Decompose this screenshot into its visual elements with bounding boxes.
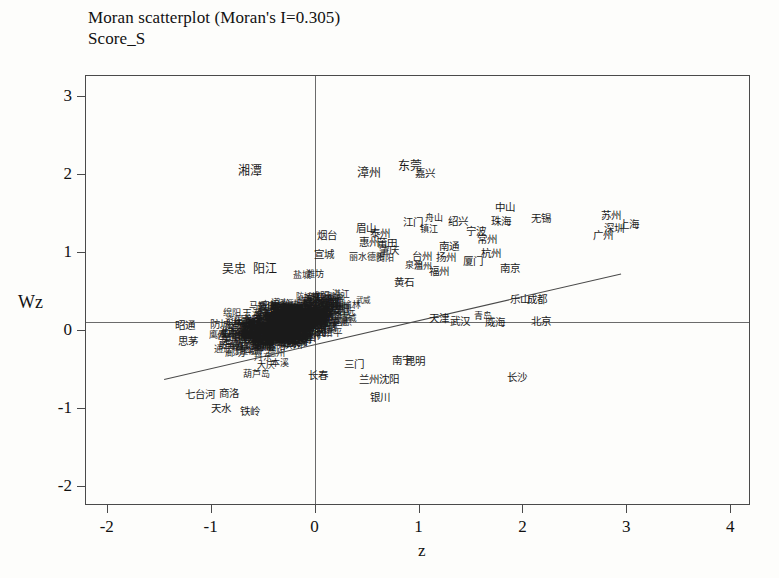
data-point-label: 惠州 (359, 236, 379, 247)
data-point-label: 扬州 (436, 251, 456, 262)
data-point-label: 丽江 (321, 300, 337, 308)
x-tick-mark (315, 504, 316, 513)
x-tick-label: 4 (726, 517, 735, 537)
data-point-label: 营口 (241, 334, 261, 344)
data-point-label: 长沙 (507, 372, 527, 383)
y-tick-label: -2 (58, 476, 72, 496)
data-point-label: 无锡 (531, 213, 551, 224)
data-point-label: 信阳 (329, 293, 345, 301)
chart-subtitle: Score_S (88, 29, 340, 50)
y-tick-mark (77, 96, 86, 97)
data-point-label: 湘潭 (238, 165, 262, 177)
data-point-label: 杭州 (481, 247, 501, 258)
y-tick-mark (77, 174, 86, 175)
data-point-label: 银川 (370, 392, 390, 403)
y-tick-label: 2 (64, 164, 73, 184)
x-tick-mark (626, 504, 627, 513)
data-point-label: 宣城 (314, 249, 334, 260)
data-point-label: 沈阳 (379, 373, 399, 384)
data-point-label: 天水 (211, 403, 231, 414)
data-point-label: 珠海 (491, 215, 511, 226)
data-point-label: 洛阳 (334, 311, 350, 319)
y-axis-title: Wz (18, 292, 43, 313)
data-point-label: 苏州 (601, 210, 621, 221)
data-point-label: 丽水 (349, 253, 367, 262)
data-point-label: 广州 (593, 229, 613, 240)
x-tick-label: -1 (204, 517, 218, 537)
data-point-label: 成都 (527, 294, 547, 305)
data-point-label: 阳江 (253, 263, 277, 275)
x-tick-mark (419, 504, 420, 513)
y-tick-mark (77, 252, 86, 253)
x-tick-label: -2 (100, 517, 114, 537)
data-point-label: 烟台 (317, 229, 337, 240)
data-point-label: 舟山 (425, 214, 443, 223)
data-point-label: 南京 (500, 262, 520, 273)
data-point-label: 威海 (485, 317, 505, 328)
data-point-label: 嘉兴 (415, 168, 435, 179)
data-point-label: 吴忠 (222, 263, 246, 275)
x-tick-label: 3 (622, 517, 631, 537)
y-tick-label: -1 (58, 398, 72, 418)
x-tick-label: 2 (518, 517, 527, 537)
plot-clip: 湘潭漳州东莞嘉兴中山苏州上海深圳广州无锡珠海绍兴江门舟山镇江宁波常州眉山泰州烟台… (86, 76, 749, 504)
data-point-label: 渭南 (263, 337, 281, 346)
data-point-label: 铁岭 (240, 405, 260, 416)
x-tick-mark (211, 504, 212, 513)
x-tick-mark (107, 504, 108, 513)
data-point-label: 黄石 (394, 276, 414, 287)
data-point-label: 思茅 (178, 336, 198, 347)
y-tick-label: 1 (64, 242, 73, 262)
data-point-label: 北京 (531, 316, 551, 327)
data-point-label: 昭通 (175, 319, 195, 330)
plot-area: 湘潭漳州东莞嘉兴中山苏州上海深圳广州无锡珠海绍兴江门舟山镇江宁波常州眉山泰州烟台… (85, 75, 750, 505)
x-axis-title: z (418, 541, 426, 561)
chart-title-block: Moran scatterplot (Moran's I=0.305) Scor… (88, 8, 340, 49)
data-point-label: 贵阳 (376, 254, 394, 263)
data-point-label: 防城港 (296, 293, 320, 301)
data-point-label: 德州 (267, 349, 285, 358)
data-point-label: 常州 (477, 233, 497, 244)
x-tick-label: 0 (310, 517, 319, 537)
y-tick-label: 0 (64, 320, 73, 340)
x-tick-label: 1 (414, 517, 423, 537)
data-point-label: 昆明 (405, 356, 425, 367)
data-point-label: 三门 (344, 358, 364, 369)
moran-scatterplot-figure: Moran scatterplot (Moran's I=0.305) Scor… (0, 0, 779, 578)
x-tick-mark (730, 504, 731, 513)
data-point-label: 榆林 (343, 301, 361, 310)
data-point-label: 七台河 (185, 389, 215, 400)
data-point-label: 厦门 (463, 256, 483, 267)
y-tick-label: 3 (64, 86, 73, 106)
y-tick-mark (77, 408, 86, 409)
data-point-label: 天津 (429, 312, 449, 323)
data-point-label: 镇江 (420, 225, 438, 234)
data-point-label: 葫芦岛 (243, 369, 270, 378)
data-point-label: 漳州 (357, 167, 381, 179)
data-point-label: 潍坊 (306, 269, 324, 278)
data-point-label: 武汉 (450, 315, 470, 326)
data-point-label: 福州 (429, 265, 449, 276)
data-point-label: 盘锦 (272, 311, 290, 320)
data-point-label: 商洛 (219, 387, 239, 398)
chart-title: Moran scatterplot (Moran's I=0.305) (88, 8, 340, 29)
y-tick-mark (77, 330, 86, 331)
data-point-label: 兰州 (359, 373, 379, 384)
data-point-label: 长春 (308, 370, 328, 381)
data-point-label: 宣威 (295, 309, 315, 319)
x-tick-mark (522, 504, 523, 513)
y-tick-mark (77, 486, 86, 487)
data-point-label: 中山 (495, 201, 515, 212)
